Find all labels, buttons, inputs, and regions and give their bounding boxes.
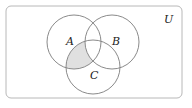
label-c: C [90,69,99,82]
label-b: B [111,35,120,48]
venn-diagram: A B C U [0,0,192,108]
label-a: A [65,35,74,48]
label-universe: U [164,13,174,26]
